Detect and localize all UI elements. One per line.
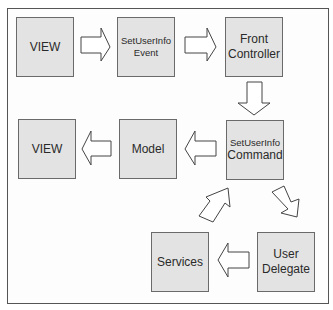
arrow-userdelegate-to-services xyxy=(218,243,249,277)
arrow-command-to-model xyxy=(185,131,216,165)
arrows-layer xyxy=(0,0,333,310)
arrow-model-to-view xyxy=(82,131,111,165)
arrow-command-to-userdelegate xyxy=(272,186,299,217)
arrow-event-to-frontcontroller xyxy=(185,28,216,61)
arrow-frontcontroller-to-command xyxy=(238,82,270,115)
arrow-view-to-event xyxy=(81,28,110,61)
arrow-services-to-command xyxy=(199,188,230,222)
